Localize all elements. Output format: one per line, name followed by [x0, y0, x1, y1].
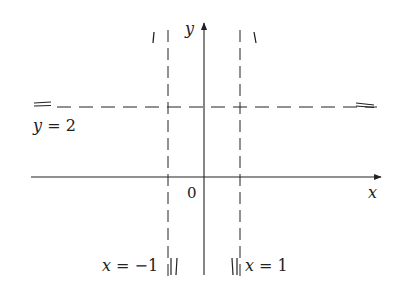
left-asymptote-label: x = −1 — [102, 256, 158, 275]
origin-label: 0 — [187, 184, 197, 202]
curve-fragment-top-right — [254, 32, 256, 43]
curve-fragment-left-lower — [34, 106, 51, 107]
curve-fragment-right-lower — [356, 106, 374, 108]
x-axis-label: x — [368, 183, 377, 202]
horizontal-asymptote-label: y = 2 — [32, 116, 76, 135]
curve-fragment-right-upper — [356, 103, 374, 105]
y-axis-label: y — [184, 19, 195, 38]
curve-fragment-left-upper — [34, 102, 51, 103]
curve-fragment-bottom-right-a — [232, 258, 233, 275]
asymptote-graph: y x 0 y = 2 x = −1 x = 1 — [0, 0, 395, 290]
curve-fragment-top-left — [153, 32, 154, 43]
curve-fragment-bottom-left-b — [176, 258, 177, 275]
right-asymptote-label: x = 1 — [245, 256, 288, 275]
